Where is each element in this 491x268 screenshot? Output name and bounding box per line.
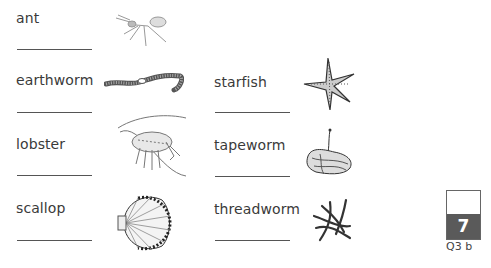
marks-box: 7 — [446, 190, 481, 240]
answer-line-tapeworm[interactable] — [215, 176, 290, 177]
answer-line-earthworm[interactable] — [17, 112, 92, 113]
word-earthworm: earthworm — [16, 72, 93, 88]
lobster-illustration — [100, 112, 190, 178]
tapeworm-illustration — [304, 128, 356, 180]
word-threadworm: threadworm — [214, 201, 300, 217]
answer-line-threadworm[interactable] — [215, 240, 290, 241]
starfish-illustration — [302, 56, 356, 112]
marks-total: 7 — [447, 214, 480, 239]
answer-line-scallop[interactable] — [17, 240, 92, 241]
word-lobster: lobster — [16, 136, 65, 152]
marks-entry-field[interactable] — [447, 191, 480, 215]
word-tapeworm: tapeworm — [214, 137, 286, 153]
answer-line-lobster[interactable] — [17, 175, 92, 176]
scallop-illustration — [116, 192, 172, 254]
question-reference: Q3 b — [446, 240, 472, 253]
answer-line-starfish[interactable] — [215, 112, 290, 113]
word-ant: ant — [16, 10, 39, 26]
ant-illustration — [108, 12, 176, 52]
word-starfish: starfish — [214, 74, 267, 90]
threadworm-illustration — [310, 198, 354, 244]
earthworm-illustration — [104, 70, 184, 94]
answer-line-ant[interactable] — [17, 49, 92, 50]
word-scallop: scallop — [16, 200, 66, 216]
